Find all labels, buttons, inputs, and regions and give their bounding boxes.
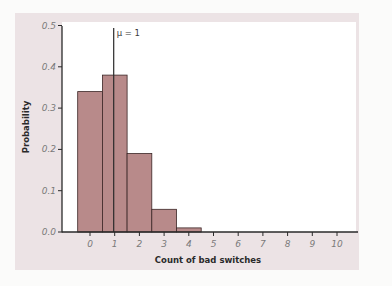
y-axis-title: Probability [21, 100, 31, 153]
x-tick-label: 1 [112, 239, 118, 249]
x-axis-title: Count of bad switches [155, 255, 261, 265]
x-tick-label: 3 [161, 239, 167, 249]
x-tick-label: 10 [331, 239, 343, 249]
mean-label: μ = 1 [117, 28, 140, 38]
y-tick-label: 0.4 [42, 62, 57, 72]
y-tick-label: 0.1 [42, 186, 56, 196]
y-axis: 0.00.10.20.30.40.5 [42, 21, 62, 238]
x-tick-label: 7 [260, 239, 266, 249]
x-axis: 012345678910 [62, 232, 358, 249]
x-tick-label: 8 [285, 239, 291, 249]
x-tick-label: 2 [137, 239, 143, 249]
bars [78, 75, 202, 232]
y-tick-label: 0.3 [42, 103, 57, 113]
y-tick-label: 0.0 [42, 227, 57, 237]
x-tick-label: 4 [186, 239, 192, 249]
histogram-chart: μ = 1 0.00.10.20.30.40.5 012345678910 Co… [0, 0, 392, 286]
y-tick-label: 0.5 [42, 21, 57, 31]
x-tick-label: 6 [235, 239, 241, 249]
x-tick-label: 0 [87, 239, 93, 249]
x-tick-label: 9 [309, 239, 315, 249]
bar-0 [78, 92, 103, 232]
bar-1 [102, 75, 127, 232]
x-tick-label: 5 [211, 239, 217, 249]
bar-2 [127, 154, 152, 233]
y-tick-label: 0.2 [42, 144, 57, 154]
bar-3 [152, 209, 177, 232]
